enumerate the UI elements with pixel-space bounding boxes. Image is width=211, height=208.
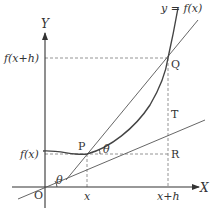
point-p-label: P [78, 140, 86, 153]
point-r-label: R [171, 148, 180, 161]
fx-label: f(x) [19, 148, 39, 161]
theta-p-label: θ [103, 143, 110, 156]
fxh-label: f(x+h) [3, 52, 39, 65]
y-axis-label: Y [41, 17, 50, 31]
point-q-label: Q [171, 58, 180, 71]
curve [43, 8, 178, 154]
theta-origin-label: θ [56, 174, 63, 187]
xh-tick-label: x+h [157, 190, 180, 203]
point-t-label: T [171, 108, 179, 121]
curve-label: y = f(x) [160, 2, 202, 15]
derivative-diagram: Y X O y = f(x) f(x+h) f(x) x x+h P Q T R… [0, 0, 211, 208]
dashed-guides [45, 58, 168, 187]
x-tick-label: x [84, 190, 91, 203]
origin-label: O [34, 189, 43, 202]
x-axis-label: X [199, 181, 209, 195]
